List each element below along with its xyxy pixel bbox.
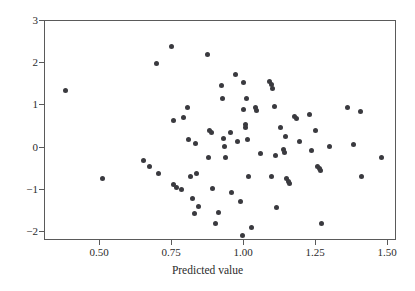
- y-axis-tick-mark: [39, 104, 44, 105]
- y-axis-tick-mark: [39, 62, 44, 63]
- x-axis-tick-mark: [243, 240, 244, 245]
- y-axis-tick-label: −2: [0, 225, 38, 237]
- plot-area-frame: [44, 20, 396, 240]
- x-axis-tick-label: 0.75: [141, 246, 201, 258]
- y-axis-tick-mark: [39, 20, 44, 21]
- x-axis-tick-label: 0.50: [69, 246, 129, 258]
- scatter-plot-figure: 3210−1−2 0.500.751.001.251.50 Predicted …: [0, 0, 415, 291]
- x-axis-tick-mark: [171, 240, 172, 245]
- y-axis-tick-label: −1: [0, 183, 38, 195]
- y-axis-tick-label: 0: [0, 141, 38, 153]
- y-axis-tick-label: 2: [0, 56, 38, 68]
- x-axis-tick-label: 1.25: [285, 246, 345, 258]
- x-axis-tick-mark: [99, 240, 100, 245]
- x-axis-title: Predicted value: [0, 264, 415, 276]
- y-axis-tick-label: 1: [0, 98, 38, 110]
- x-axis-tick-label: 1.50: [357, 246, 415, 258]
- y-axis-tick-mark: [39, 147, 44, 148]
- x-axis-tick-mark: [315, 240, 316, 245]
- y-axis-tick-mark: [39, 189, 44, 190]
- x-axis-tick-label: 1.00: [213, 246, 273, 258]
- y-axis-tick-mark: [39, 231, 44, 232]
- y-axis-tick-label: 3: [0, 14, 38, 26]
- x-axis-tick-mark: [387, 240, 388, 245]
